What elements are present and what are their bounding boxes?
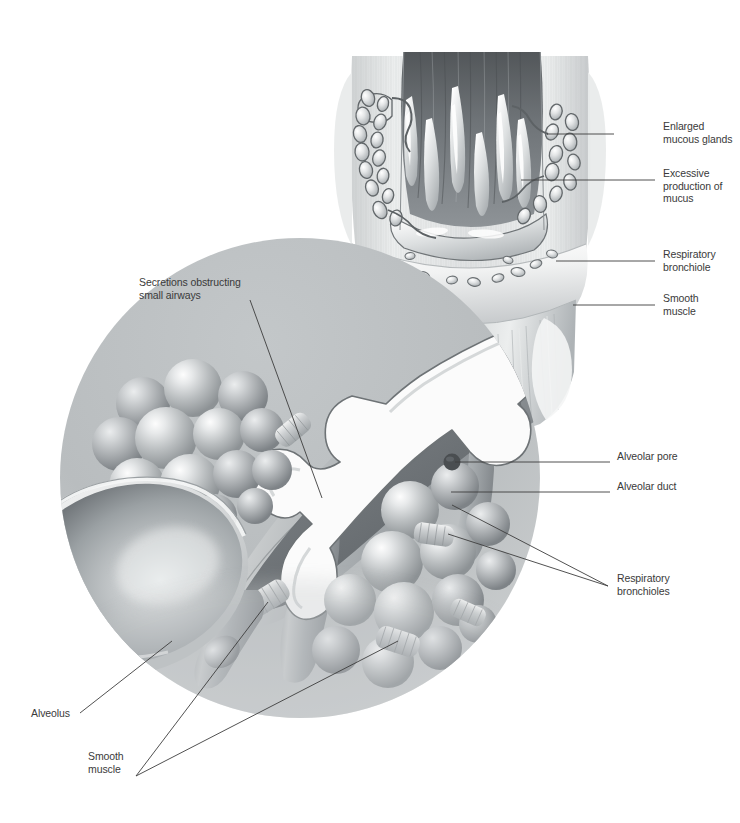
label-smooth-muscle-lower: Smooth muscle: [88, 750, 124, 775]
label-smooth-muscle-upper: Smooth muscle: [663, 292, 699, 317]
anatomical-illustration: [0, 0, 740, 823]
label-enlarged-mucous-glands: Enlarged mucous glands: [663, 120, 732, 145]
label-secretions-obstructing-small-airways: Secretions obstructing small airways: [139, 276, 241, 301]
label-respiratory-bronchiole: Respiratory bronchiole: [663, 248, 716, 273]
magnified-alveolar-region: [0, 238, 560, 820]
leader-line-alveolus: [80, 641, 172, 713]
label-alveolus: Alveolus: [31, 707, 70, 720]
label-respiratory-bronchioles: Respiratory bronchioles: [617, 572, 670, 597]
label-alveolar-pore: Alveolar pore: [617, 450, 678, 463]
label-excessive-production-of-mucus: Excessive production of mucus: [663, 167, 740, 205]
label-alveolar-duct: Alveolar duct: [617, 480, 676, 493]
illustration-figure: Enlarged mucous glands Excessive product…: [0, 0, 740, 823]
